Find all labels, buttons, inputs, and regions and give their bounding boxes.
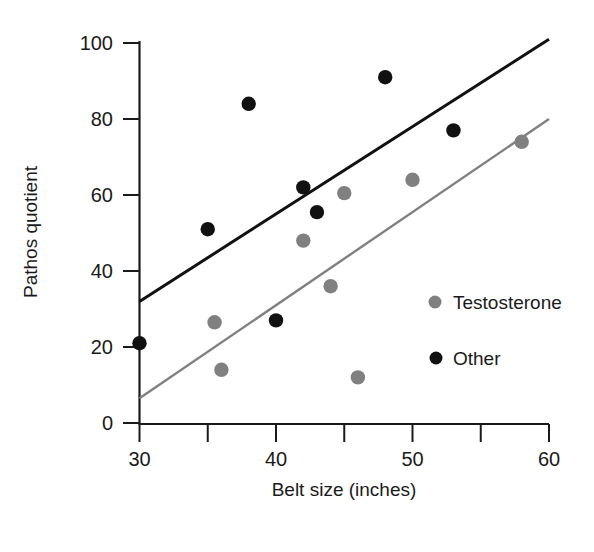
data-point xyxy=(269,313,283,327)
data-point xyxy=(296,233,310,247)
legend-label-testosterone: Testosterone xyxy=(453,292,562,313)
data-point xyxy=(132,336,146,350)
legend-marker-other xyxy=(430,352,443,365)
y-tick-label: 40 xyxy=(91,260,113,282)
y-tick-label: 0 xyxy=(102,412,113,434)
y-tick-label: 100 xyxy=(80,32,113,54)
chart-background xyxy=(0,0,594,552)
data-point xyxy=(310,205,324,219)
data-point xyxy=(296,180,310,194)
chart-canvas: 020406080100 30405060 Belt size (inches)… xyxy=(0,0,594,552)
y-tick-label: 60 xyxy=(91,184,113,206)
x-tick-label: 40 xyxy=(265,448,287,470)
legend-label-other: Other xyxy=(453,348,501,369)
data-point xyxy=(351,370,365,384)
scatter-plot-figure: 020406080100 30405060 Belt size (inches)… xyxy=(0,0,594,552)
y-tick-label: 80 xyxy=(91,108,113,130)
x-tick-label: 60 xyxy=(538,448,560,470)
data-point xyxy=(515,135,529,149)
x-tick-label: 30 xyxy=(128,448,150,470)
data-point xyxy=(405,173,419,187)
data-point xyxy=(214,363,228,377)
y-tick-label: 20 xyxy=(91,336,113,358)
data-point xyxy=(378,70,392,84)
x-tick-label: 50 xyxy=(401,448,423,470)
data-point xyxy=(323,279,337,293)
data-point xyxy=(207,315,221,329)
data-point xyxy=(201,222,215,236)
y-axis-title: Pathos quotient xyxy=(20,165,41,298)
data-point xyxy=(242,97,256,111)
data-point xyxy=(446,123,460,137)
x-axis-title: Belt size (inches) xyxy=(272,479,417,500)
legend-marker-testosterone xyxy=(429,296,442,309)
data-point xyxy=(337,186,351,200)
